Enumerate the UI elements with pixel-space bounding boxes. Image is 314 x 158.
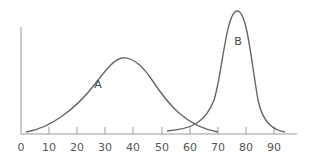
curve-b-label: B (234, 35, 242, 48)
curve-a (26, 58, 218, 132)
tick-label: 60 (183, 141, 197, 154)
tick-label: 40 (126, 141, 140, 154)
tick-label: 30 (98, 141, 112, 154)
tick-label: 50 (155, 141, 169, 154)
curve-a-label: A (94, 78, 102, 91)
x-tick-labels: 0 10 20 30 40 50 60 70 80 90 (18, 141, 282, 154)
curve-b (167, 11, 285, 132)
tick-label: 70 (211, 141, 225, 154)
tick-label: 20 (70, 141, 84, 154)
tick-label: 90 (267, 141, 281, 154)
distribution-chart: 0 10 20 30 40 50 60 70 80 90 A B (0, 0, 314, 158)
tick-label: 0 (18, 141, 25, 154)
x-ticks (49, 127, 274, 134)
tick-label: 10 (42, 141, 56, 154)
chart-canvas: 0 10 20 30 40 50 60 70 80 90 A B (0, 0, 314, 158)
tick-label: 80 (239, 141, 253, 154)
